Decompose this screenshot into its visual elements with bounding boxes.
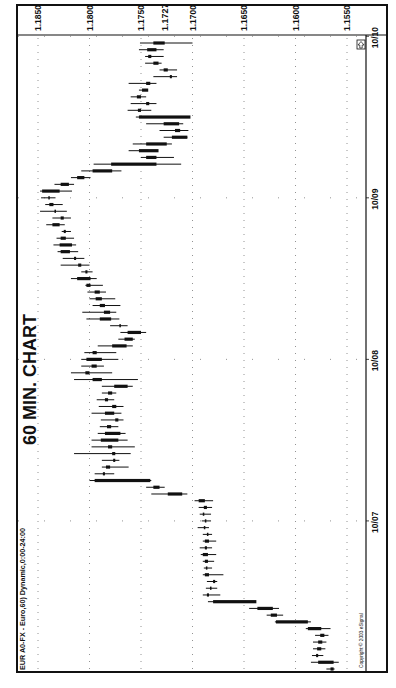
ohlc-bar	[136, 115, 191, 118]
price-tick-label: 1.1600	[291, 5, 301, 31]
date-tick-label: 10/10	[370, 27, 380, 49]
date-tick-label: 10/09	[370, 188, 380, 210]
symbol-label: EUR A0-FX - Euro,60) Dynamic,0:00-24:00	[18, 528, 27, 670]
price-tick-label: 1.1700	[188, 5, 198, 31]
date-tick-label: 10/07	[370, 511, 380, 533]
ohlc-bar	[90, 479, 152, 482]
price-tick-label: 1.1750	[136, 5, 146, 31]
ohlc-chart: 1.18501.18001.17501.17001.16501.16001.15…	[0, 0, 396, 688]
price-tick-label: 1.1550	[342, 5, 352, 31]
copyright-label: Copyright © 2003 eSignal	[358, 613, 364, 668]
ohlc-bar	[208, 600, 256, 603]
scroll-right-arrow-icon[interactable]	[357, 40, 365, 49]
chart-frame	[17, 5, 387, 672]
ohlc-bar	[275, 620, 311, 623]
price-tick-label: 1.1850	[33, 5, 43, 31]
price-tick-label: 1.1650	[239, 5, 249, 31]
date-tick-label: 10/08	[370, 350, 380, 372]
price-tick-label: 1.1800	[85, 5, 95, 31]
chart-canvas: 1.18501.18001.17501.17001.16501.16001.15…	[0, 0, 396, 688]
chart-title: 60 MIN. CHART	[20, 314, 40, 445]
last-price-label: 1.1727	[160, 3, 170, 31]
